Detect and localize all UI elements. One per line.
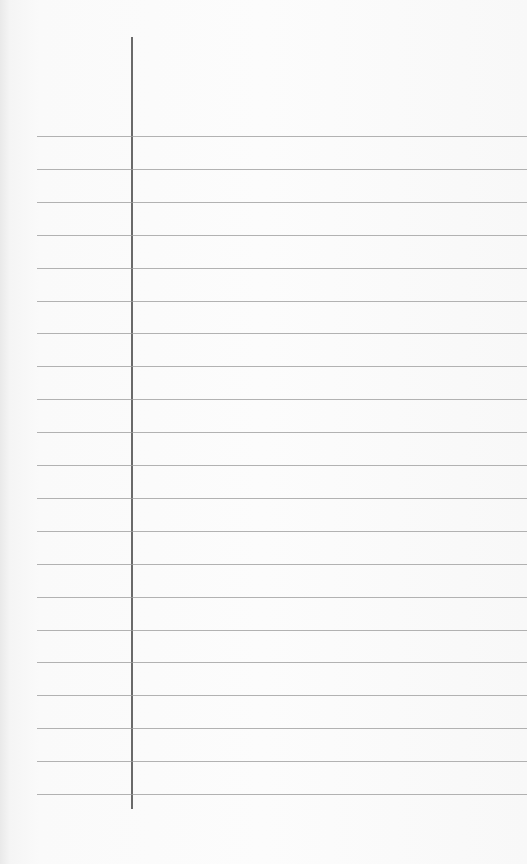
ruled-line — [37, 630, 527, 631]
ruled-line — [37, 136, 527, 137]
ruled-line — [37, 662, 527, 663]
ruled-line — [37, 531, 527, 532]
lined-paper — [0, 0, 527, 864]
ruled-line — [37, 794, 527, 795]
ruled-line — [37, 235, 527, 236]
ruled-line — [37, 268, 527, 269]
ruled-line — [37, 432, 527, 433]
ruled-line — [37, 564, 527, 565]
ruled-line — [37, 728, 527, 729]
ruled-line — [37, 498, 527, 499]
ruled-line — [37, 597, 527, 598]
margin-line — [131, 37, 133, 809]
ruled-line — [37, 761, 527, 762]
ruled-line — [37, 333, 527, 334]
ruled-line — [37, 399, 527, 400]
ruled-line — [37, 301, 527, 302]
ruled-line — [37, 366, 527, 367]
ruled-line — [37, 202, 527, 203]
ruled-line — [37, 695, 527, 696]
ruled-line — [37, 465, 527, 466]
ruled-line — [37, 169, 527, 170]
